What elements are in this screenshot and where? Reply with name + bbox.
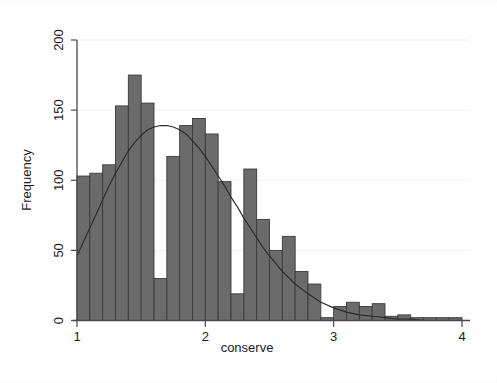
histogram-bar xyxy=(231,294,244,321)
x-tick-label: 4 xyxy=(458,329,465,344)
histogram-bar xyxy=(77,176,90,320)
histogram-bar xyxy=(116,106,129,321)
histogram-chart: 050100150200 1234 Frequency conserve xyxy=(0,0,497,383)
histogram-bar xyxy=(167,156,180,320)
histogram-bar xyxy=(308,284,321,320)
x-tick-label: 1 xyxy=(73,329,80,344)
y-axis-title: Frequency xyxy=(19,149,34,211)
histogram-bar xyxy=(154,278,167,320)
x-tick-label: 3 xyxy=(330,329,337,344)
histogram-bar xyxy=(205,134,218,321)
histogram-figure: 050100150200 1234 Frequency conserve xyxy=(0,0,497,383)
histogram-bar xyxy=(295,271,308,320)
y-tick-label: 50 xyxy=(51,243,66,257)
x-axis-title: conserve xyxy=(221,340,274,355)
histogram-bar xyxy=(359,306,372,320)
histogram-bar xyxy=(347,302,360,320)
y-tick-label: 100 xyxy=(51,169,66,191)
histogram-bar xyxy=(244,169,257,320)
histogram-bar xyxy=(90,173,103,320)
histogram-bar xyxy=(128,75,141,320)
y-tick-label: 0 xyxy=(51,317,66,324)
histogram-bar xyxy=(257,220,270,321)
histogram-bar xyxy=(270,250,283,320)
histogram-bar xyxy=(103,165,116,321)
histogram-bar xyxy=(218,182,231,321)
histogram-bar xyxy=(141,103,154,320)
histogram-bar xyxy=(180,126,193,321)
y-tick-label: 150 xyxy=(51,99,66,121)
y-tick-label: 200 xyxy=(51,29,66,51)
x-tick-label: 2 xyxy=(202,329,209,344)
